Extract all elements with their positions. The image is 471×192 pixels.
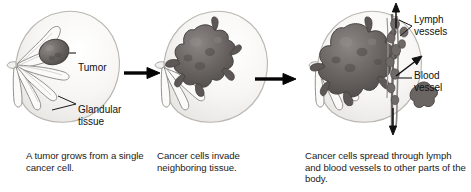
label-blood-vessel-line-1: Blood xyxy=(414,70,464,82)
label-glandular-tissue: Glandular tissue xyxy=(78,104,140,127)
cancer-progression-figure: Tumor Glandular tissue Lymph vessels Blo… xyxy=(0,0,471,192)
label-lymph-vessels: Lymph vessels xyxy=(414,14,468,37)
label-lymph-vessels-line-1: Lymph xyxy=(414,14,468,26)
label-blood-vessel-line-2: vessel xyxy=(414,82,464,94)
caption-stage-3: Cancer cells spread through lymph and bl… xyxy=(305,150,468,185)
label-tumor: Tumor xyxy=(78,62,107,74)
panel-2-illustration xyxy=(148,0,288,140)
label-blood-vessel: Blood vessel xyxy=(414,70,464,93)
label-glandular-tissue-line-2: tissue xyxy=(78,116,140,128)
label-glandular-tissue-line-1: Glandular xyxy=(78,104,140,116)
label-lymph-vessels-line-2: vessels xyxy=(414,26,468,38)
caption-stage-2: Cancer cells invade neighboring tissue. xyxy=(157,150,289,173)
caption-stage-1: A tumor grows from a single cancer cell. xyxy=(26,150,156,173)
panel-stage-2 xyxy=(148,0,288,140)
